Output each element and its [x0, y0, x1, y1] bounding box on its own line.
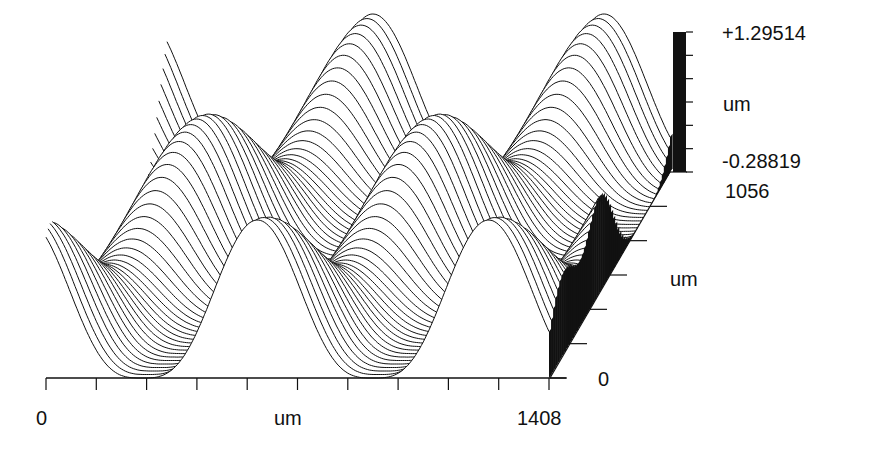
y-max-label: 1056 — [725, 180, 770, 202]
z-unit-label: um — [723, 93, 751, 115]
z-min-label: -0.28819 — [722, 150, 801, 172]
waterfall-surface — [46, 14, 673, 378]
y-min-label: 0 — [598, 368, 609, 390]
x-unit-label: um — [274, 407, 302, 429]
x-min-label: 0 — [36, 407, 47, 429]
y-unit-label: um — [670, 268, 698, 290]
x-max-label: 1408 — [517, 407, 562, 429]
height-color-bar — [673, 32, 686, 172]
surface-plot — [0, 0, 884, 461]
z-max-label: +1.29514 — [722, 22, 806, 44]
